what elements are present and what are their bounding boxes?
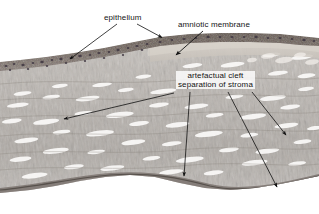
label-artefactual-cleft: artefactual cleft separation of stroma [176, 71, 255, 89]
micrograph-image [0, 0, 319, 214]
label-amniotic-membrane: amniotic membrane [178, 20, 250, 29]
label-artefactual-cleft-line1: artefactual cleft [187, 71, 243, 80]
label-artefactual-cleft-line2: separation of stroma [178, 80, 253, 89]
histology-figure: epithelium amniotic membrane artefactual… [0, 0, 319, 214]
label-epithelium: epithelium [104, 13, 141, 22]
